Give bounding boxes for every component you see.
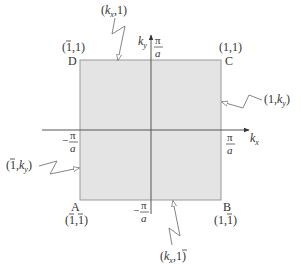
corner-c-coords: (1,1) [219,40,242,54]
svg-text:a: a [70,142,76,154]
edge-left-label: (1,ky) [6,158,79,174]
svg-text:π: π [70,129,76,141]
minus-pi-over-a-bottom-label: − π a [133,199,149,224]
svg-text:a: a [155,47,161,59]
edge-top-label: (kx,1) [101,3,127,60]
edge-bottom-label: (kx,1) [160,201,187,264]
svg-text:π: π [227,131,233,143]
ky-axis-label: ky [138,34,147,50]
squiggle-pointer-right [222,95,262,108]
pi-over-a-right-label: π a [226,131,235,156]
squiggle-pointer-left [39,161,79,174]
corner-d-coords: (1,1) [62,40,85,54]
svg-text:(kx,1): (kx,1) [160,249,186,264]
svg-text:(kx,1): (kx,1) [101,3,127,19]
squiggle-pointer-bottom [169,201,180,245]
svg-text:π: π [155,34,161,46]
kx-axis-label: kx [250,131,259,147]
corner-b: B (1,1) [214,200,237,227]
corner-a: A (1,1) [65,200,88,227]
corner-a-letter: A [71,200,80,214]
corner-c: C (1,1) [219,40,242,68]
corner-d-letter: D [68,54,77,68]
corner-b-coords: (1,1) [214,213,237,227]
minus-pi-over-a-left-label: − π a [62,129,78,154]
svg-text:a: a [227,144,233,156]
svg-text:(1,ky): (1,ky) [6,158,32,174]
corner-a-coords: (1,1) [65,213,88,227]
pi-over-a-top-label: π a [154,34,163,59]
svg-text:−: − [62,134,68,146]
svg-text:a: a [141,212,147,224]
svg-text:π: π [141,199,147,211]
squiggle-pointer-top [112,18,125,60]
corner-b-letter: B [223,200,231,214]
svg-text:−: − [133,204,139,216]
corner-c-letter: C [225,54,233,68]
edge-right-label: (1,ky) [222,92,290,108]
brillouin-zone-diagram: ky π a kx π a − π a − π a D (1,1) C (1,1… [0,0,301,264]
svg-text:(1,ky): (1,ky) [264,92,290,108]
